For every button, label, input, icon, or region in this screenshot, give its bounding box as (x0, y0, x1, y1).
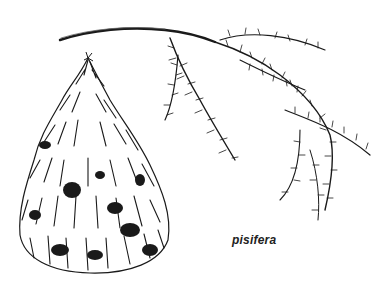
tree-drawing (20, 52, 169, 273)
illustration-canvas (0, 0, 392, 287)
species-caption: pisifera (232, 233, 276, 247)
